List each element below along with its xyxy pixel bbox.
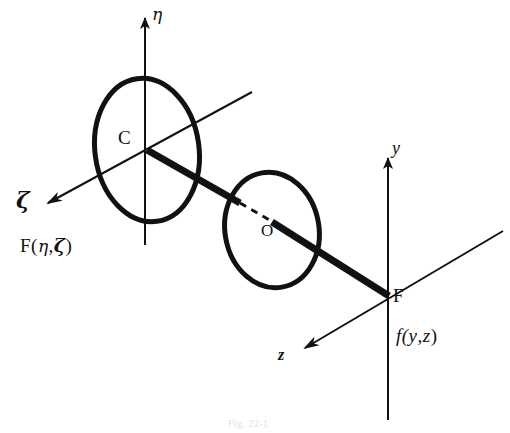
image-function-close: )	[431, 325, 438, 346]
image-function-open: f(	[396, 325, 409, 346]
image-function-y: y	[409, 325, 418, 346]
object-function-close: )	[66, 235, 73, 256]
point-c-label: C	[118, 128, 131, 147]
image-function-label: f(y,z)	[396, 326, 438, 345]
figure-container: η ζ y z C O F F(η,ζ) f(y,z) Fig. 22-1	[0, 0, 510, 433]
eta-axis-label: η	[152, 6, 162, 23]
point-o-label: O	[261, 222, 273, 239]
figure-caption: Fig. 22-1	[228, 418, 268, 429]
z-axis-label: z	[278, 347, 284, 363]
object-function-eta: η	[38, 236, 49, 256]
zeta-axis-label: ζ	[16, 188, 30, 211]
object-function-label: F(η,ζ)	[20, 236, 72, 255]
point-f-label: F	[393, 286, 404, 305]
object-function-zeta: ζ	[54, 234, 66, 256]
principal-ray-upper	[147, 150, 240, 203]
object-function-open: F(	[20, 235, 38, 256]
zeta-axis-line	[48, 92, 252, 203]
y-axis-label: y	[392, 139, 400, 157]
optical-diagram	[0, 0, 510, 433]
image-function-z: z	[423, 325, 431, 346]
